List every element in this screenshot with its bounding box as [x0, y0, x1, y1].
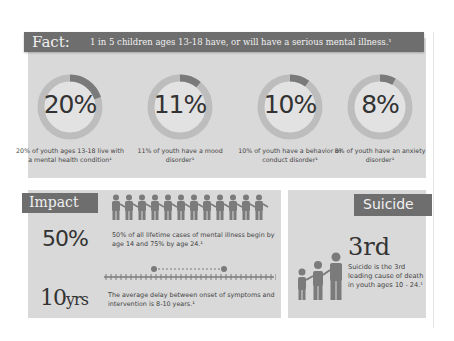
stat-value: 10% [257, 90, 323, 119]
stat-value: 20% [37, 90, 103, 119]
stat-caption: 20% of youth ages 13-18 live with a ment… [15, 147, 125, 164]
fact-banner: Fact: 1 in 5 children ages 13-18 have, o… [24, 32, 424, 52]
stat-caption: 11% of youth have a mood disorder¹ [125, 147, 235, 164]
stat-ring-11: 11% [147, 74, 213, 140]
suicide-stat-value: 3rd [348, 233, 390, 261]
impact-stat-value: 50% [42, 226, 88, 251]
fact-headline: 1 in 5 children ages 13-18 have, or will… [90, 37, 392, 47]
suicide-stat-text: Suicide is the 3rd leading cause of deat… [348, 263, 428, 290]
stat-ring-10: 10% [257, 74, 323, 140]
stat-value: 11% [147, 90, 213, 119]
fact-label: Fact: [32, 33, 70, 51]
people-row-icon [110, 194, 270, 222]
timeline-icon [104, 264, 276, 284]
delay-number: 10 [40, 285, 66, 310]
stat-ring-20: 20% [37, 74, 103, 140]
delay-unit: yrs [66, 290, 88, 309]
stat-value: 8% [347, 90, 413, 119]
suicide-label: Suicide [363, 196, 414, 212]
suicide-banner: Suicide [354, 194, 432, 216]
impact-stat-text: 50% of all lifetime cases of mental illn… [112, 231, 277, 248]
delay-stat-value: 10yrs [40, 285, 88, 310]
divider-line [433, 32, 434, 328]
stat-ring-8: 8% [347, 74, 413, 140]
stat-caption: 8% of youth have an anxiety disorder¹ [325, 147, 435, 164]
impact-label: Impact [29, 194, 79, 210]
delay-stat-text: The average delay between onset of sympt… [108, 291, 276, 308]
family-icon [294, 250, 348, 302]
impact-banner: Impact [22, 193, 98, 213]
